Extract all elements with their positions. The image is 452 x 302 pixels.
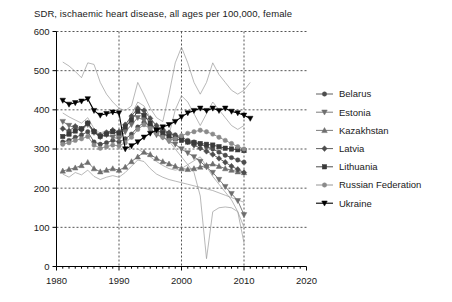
x-tick-label: 2020 — [296, 275, 317, 286]
series-marker — [111, 130, 115, 134]
y-tick-label: 600 — [34, 26, 50, 37]
series-marker — [66, 102, 72, 107]
series-marker — [79, 163, 85, 168]
series-marker — [136, 109, 140, 113]
series-marker — [204, 108, 210, 113]
series-marker — [129, 159, 135, 164]
series-marker — [248, 116, 254, 121]
series-marker — [217, 150, 221, 154]
y-tick-label: 300 — [34, 143, 50, 154]
series-marker — [79, 126, 83, 130]
series-marker — [217, 135, 221, 139]
legend-label: Russian Federation — [339, 179, 421, 190]
legend-label: Ukraine — [339, 198, 372, 209]
series-marker — [136, 127, 140, 131]
series-marker — [67, 141, 71, 145]
legend-item-estonia[interactable]: Estonia — [316, 107, 371, 118]
series-marker — [86, 134, 90, 138]
y-tick-label: 200 — [34, 183, 50, 194]
chart-plot: 0100200300400500600 19801990200020102020… — [0, 0, 452, 302]
x-tick-label: 1980 — [46, 275, 67, 286]
series-marker — [173, 137, 177, 141]
series-marker — [160, 159, 166, 164]
series-marker — [92, 130, 96, 134]
series-marker — [204, 142, 208, 146]
series-marker — [235, 199, 241, 204]
series-marker — [167, 138, 171, 142]
y-tick-label: 500 — [34, 65, 50, 76]
series-marker — [223, 153, 227, 157]
series-marker — [241, 213, 247, 218]
legend-label: Estonia — [339, 107, 371, 118]
series-marker — [161, 135, 165, 139]
series-marker — [123, 147, 129, 152]
chart-legend: BelarusEstoniaKazakhstanLatviaLithuaniaR… — [316, 88, 421, 208]
series-line — [63, 108, 244, 172]
legend-item-russian-federation[interactable]: Russian Federation — [316, 179, 421, 190]
series-marker — [210, 152, 215, 158]
y-tick-label: 400 — [34, 104, 50, 115]
series-marker — [211, 143, 215, 147]
series-marker — [229, 163, 234, 169]
series-marker — [61, 134, 65, 138]
series-marker — [79, 137, 83, 141]
series-marker — [229, 155, 233, 159]
legend-item-lithuania[interactable]: Lithuania — [316, 161, 378, 172]
series-marker — [104, 132, 108, 136]
series-marker — [186, 140, 190, 144]
series-marker — [60, 126, 65, 132]
series-marker — [142, 123, 146, 127]
series-marker — [142, 113, 146, 117]
series-marker — [179, 138, 183, 142]
legend-marker — [322, 165, 326, 169]
y-tick-label: 0 — [44, 261, 49, 272]
series-marker — [236, 158, 240, 162]
series-marker — [73, 129, 77, 133]
x-tick-label: 1990 — [108, 275, 129, 286]
series-marker — [241, 113, 247, 118]
series-marker — [92, 143, 96, 147]
series-marker — [98, 113, 104, 118]
legend-label: Belarus — [339, 88, 371, 99]
series-marker — [192, 141, 196, 145]
series-marker — [242, 160, 246, 164]
axis-ticks-layer — [53, 32, 307, 271]
series-marker — [60, 98, 66, 103]
series-marker — [98, 134, 102, 138]
series-marker — [223, 146, 227, 150]
series-marker — [135, 154, 141, 159]
series-marker — [198, 145, 203, 151]
series-marker — [210, 161, 216, 166]
legend-item-belarus[interactable]: Belarus — [316, 88, 371, 99]
series-line — [63, 152, 244, 172]
x-axis-labels: 19801990200020102020 — [46, 275, 317, 286]
legend-item-kazakhstan[interactable]: Kazakhstan — [316, 125, 389, 136]
series-marker — [85, 159, 91, 164]
series-marker — [86, 130, 90, 134]
series-marker — [129, 135, 133, 139]
series-marker — [185, 151, 191, 156]
series-marker — [135, 140, 141, 145]
series-marker — [223, 138, 227, 142]
background-line — [63, 47, 251, 121]
series-marker — [67, 132, 71, 136]
series-marker — [117, 144, 121, 148]
legend-marker — [322, 92, 326, 96]
series-marker — [116, 111, 122, 116]
series-marker — [129, 118, 133, 122]
legend-item-ukraine[interactable]: Ukraine — [316, 198, 372, 209]
series-marker — [117, 131, 121, 135]
legend-item-latvia[interactable]: Latvia — [316, 143, 365, 154]
legend-label: Latvia — [339, 143, 365, 154]
series-marker — [86, 121, 90, 125]
series-marker — [123, 125, 127, 129]
series-marker — [173, 119, 179, 124]
series-marker — [148, 121, 152, 125]
series-marker — [198, 141, 202, 145]
series-marker — [179, 147, 185, 152]
series-marker — [148, 131, 154, 136]
series-marker — [204, 130, 208, 134]
legend-marker — [322, 183, 326, 187]
data-series-layer — [60, 97, 253, 218]
series-marker — [73, 138, 77, 142]
